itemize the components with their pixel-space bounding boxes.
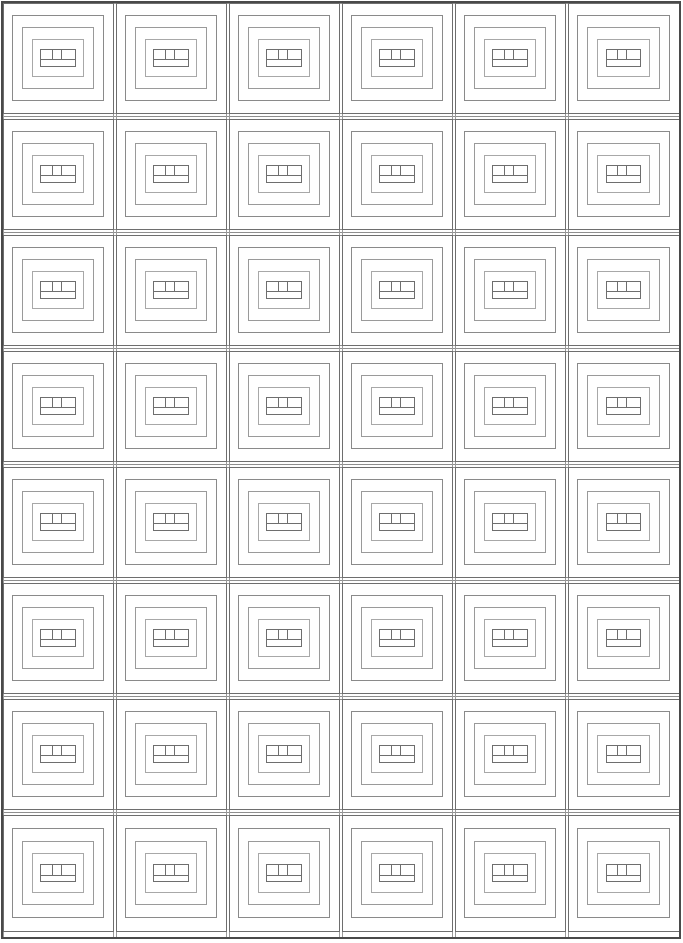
nested-frame-grid-diagram (0, 0, 683, 943)
pattern-canvas (0, 0, 683, 943)
